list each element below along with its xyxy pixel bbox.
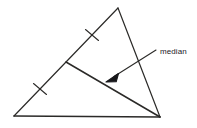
median-label: median <box>160 47 187 56</box>
geometry-diagram: median <box>0 0 197 128</box>
triangle-base-edge <box>14 116 160 117</box>
canvas-background <box>0 0 197 128</box>
triangle-median-figure: median <box>0 0 197 128</box>
